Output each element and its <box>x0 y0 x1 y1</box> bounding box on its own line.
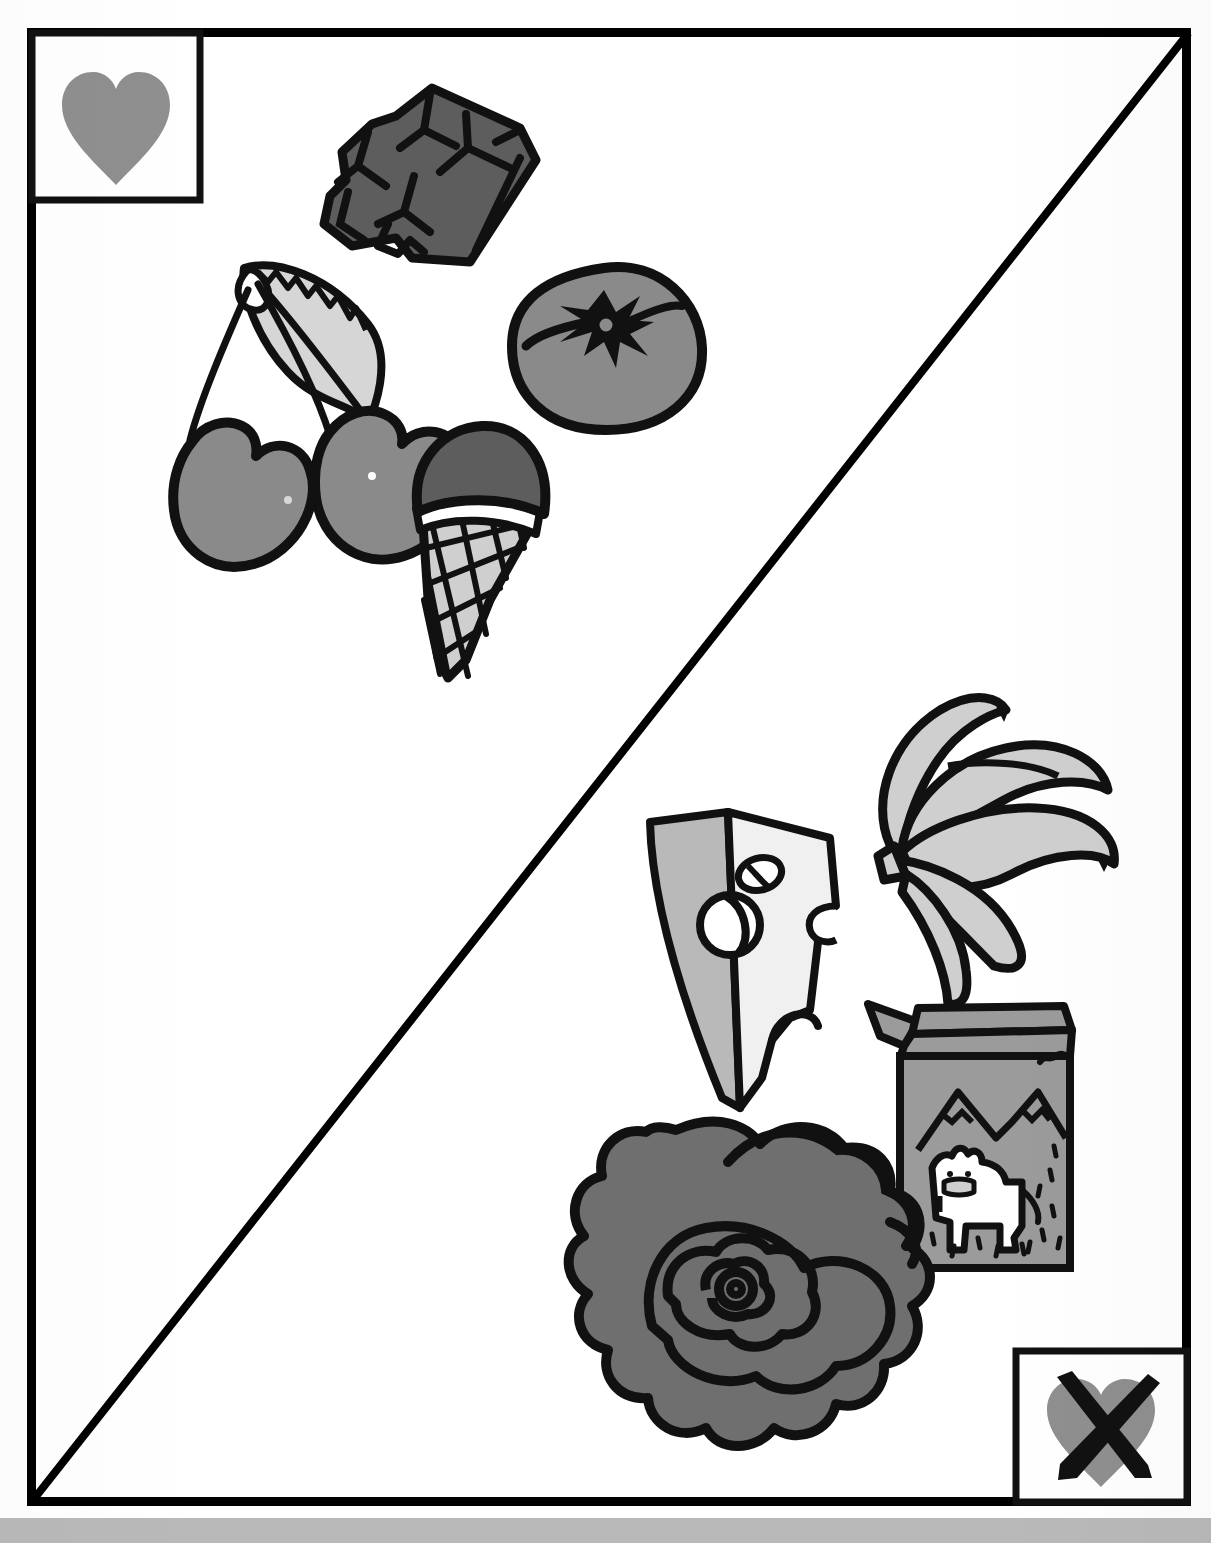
worksheet-canvas <box>0 0 1211 1543</box>
tomato <box>512 267 702 430</box>
page-bottom-band <box>0 1518 1211 1543</box>
worksheet-page <box>0 0 1211 1543</box>
like-legend-box[interactable] <box>32 33 200 200</box>
dislike-legend-box[interactable] <box>1016 1351 1187 1502</box>
lettuce <box>569 1122 930 1446</box>
